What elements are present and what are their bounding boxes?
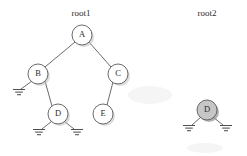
node-a-label: A	[79, 29, 86, 39]
tree-diagram: root1	[0, 0, 247, 156]
paper-smudge	[128, 86, 172, 104]
node-d2[interactable]: D	[197, 100, 219, 122]
root2-label: root2	[198, 8, 217, 18]
ground-symbol-d-left	[33, 130, 45, 135]
node-a[interactable]: A	[72, 25, 94, 47]
tree-root2: root2	[183, 8, 232, 131]
ground-symbol-d2-right	[220, 126, 232, 131]
tree-root1: root1	[13, 8, 130, 135]
node-e[interactable]: E	[93, 104, 115, 126]
ground-symbol-b-left	[13, 90, 25, 95]
paper-smudge-2	[187, 143, 223, 153]
tree-diagram-canvas: root1	[0, 0, 247, 156]
edge-a-b	[45, 42, 75, 67]
stub-b-left	[21, 81, 32, 89]
node-b-label: B	[35, 68, 41, 78]
edge-b-d	[45, 81, 52, 106]
node-b[interactable]: B	[28, 64, 50, 86]
ground-symbol-d2-left	[183, 126, 195, 131]
node-c-label: C	[115, 68, 121, 78]
node-d-label: D	[55, 108, 61, 118]
stub-d-left	[42, 121, 52, 129]
null-link-d-left	[33, 121, 52, 135]
node-d[interactable]: D	[48, 104, 70, 126]
null-link-d2-left	[183, 117, 201, 131]
node-c[interactable]: C	[108, 64, 130, 86]
edge-c-e	[107, 82, 113, 105]
edges-root1	[45, 42, 113, 106]
ground-symbol-d-right	[71, 130, 83, 135]
null-link-b-left	[13, 81, 32, 95]
node-e-label: E	[100, 108, 105, 118]
stub-d2-left	[192, 117, 201, 125]
node-d2-label: D	[204, 104, 210, 114]
root1-label: root1	[72, 8, 91, 18]
edge-a-c	[89, 42, 111, 67]
